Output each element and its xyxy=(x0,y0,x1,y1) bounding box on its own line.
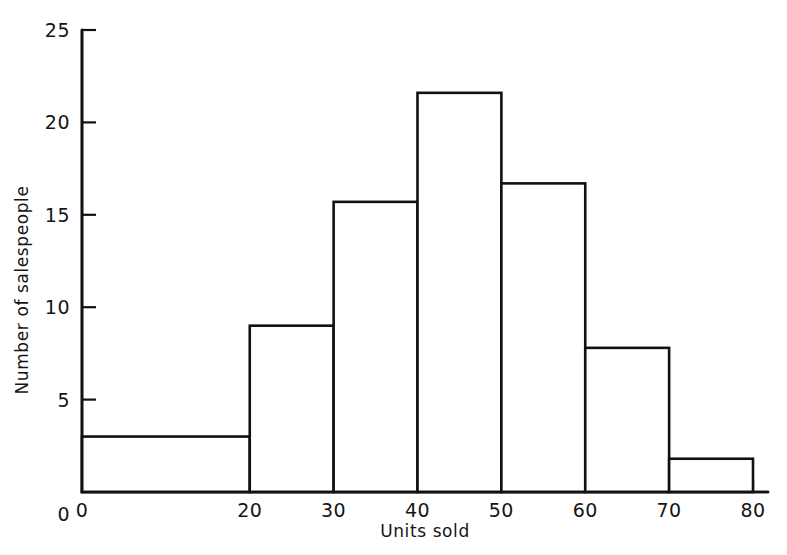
y-axis-title: Number of salespeople xyxy=(12,185,32,394)
x-tick-label-50: 50 xyxy=(489,499,514,521)
histogram-bar-0-20 xyxy=(82,437,250,492)
y-tick-label-10: 10 xyxy=(45,296,70,318)
x-tick-label-0: 0 xyxy=(76,499,89,521)
y-tick-label-5: 5 xyxy=(57,389,70,411)
y-tick-label-25: 25 xyxy=(45,19,70,41)
y-tick-label-15: 15 xyxy=(45,204,70,226)
x-tick-label-30: 30 xyxy=(321,499,346,521)
x-tick-label-80: 80 xyxy=(740,499,765,521)
histogram-figure: 0510152025 020304050607080 Units sold Nu… xyxy=(0,0,787,555)
histogram-bar-40-50 xyxy=(418,93,502,492)
histogram-bar-20-30 xyxy=(250,326,334,492)
histogram-bar-30-40 xyxy=(334,202,418,492)
y-tick-label-0: 0 xyxy=(57,503,70,525)
y-tick-label-20: 20 xyxy=(45,111,70,133)
x-tick-label-60: 60 xyxy=(573,499,598,521)
x-tick-label-20: 20 xyxy=(237,499,262,521)
histogram-bar-60-70 xyxy=(585,348,669,492)
plot-area: 0510152025 020304050607080 Units sold Nu… xyxy=(0,0,787,555)
x-tick-label-40: 40 xyxy=(405,499,430,521)
x-tick-label-70: 70 xyxy=(657,499,682,521)
histogram-bar-50-60 xyxy=(501,183,585,492)
histogram-bar-70-80 xyxy=(669,459,753,492)
x-axis-title: Units sold xyxy=(380,521,470,541)
